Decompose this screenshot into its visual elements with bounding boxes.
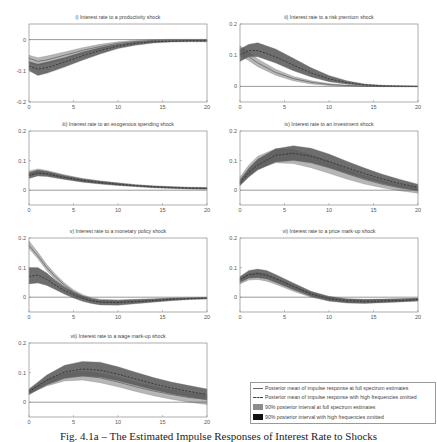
impulse-response-plot: 0510152000.10.2 — [210, 22, 428, 114]
svg-text:0.1: 0.1 — [18, 370, 26, 376]
light-band-swatch-icon — [253, 404, 263, 410]
svg-text:0.1: 0.1 — [229, 52, 237, 58]
svg-text:0.2: 0.2 — [229, 21, 237, 27]
svg-text:5: 5 — [72, 207, 75, 213]
svg-text:0: 0 — [27, 419, 30, 425]
svg-text:5: 5 — [72, 419, 75, 425]
dashed-line-icon — [253, 397, 263, 398]
impulse-response-plot: 05101520-0.2-0.10 — [0, 22, 217, 114]
svg-text:0: 0 — [238, 314, 241, 320]
svg-text:10: 10 — [115, 104, 121, 110]
panel-title: iii) Interest rate to an exogenous spend… — [29, 121, 207, 127]
svg-text:0: 0 — [238, 104, 241, 110]
svg-text:20: 20 — [415, 207, 421, 213]
svg-text:5: 5 — [283, 207, 286, 213]
svg-text:0.2: 0.2 — [229, 128, 237, 134]
legend-label: 90% posterior interval with high frequen… — [265, 414, 384, 420]
legend-item-omitted-band: 90% posterior interval with high frequen… — [253, 413, 384, 421]
svg-text:-0.1: -0.1 — [17, 68, 26, 74]
svg-text:0.1: 0.1 — [229, 158, 237, 164]
svg-text:10: 10 — [115, 207, 121, 213]
panel-title: vi) Interest rate to a price mark-up sho… — [240, 228, 418, 234]
svg-text:15: 15 — [370, 104, 376, 110]
svg-text:15: 15 — [159, 419, 165, 425]
impulse-response-plot: 0510152000.10.2 — [210, 236, 428, 324]
panel-title: i) Interest rate to a productivity shock — [29, 14, 207, 20]
impulse-response-plot: 0510152000.10.2 — [210, 129, 428, 217]
svg-text:0.2: 0.2 — [18, 340, 26, 346]
svg-text:15: 15 — [370, 314, 376, 320]
svg-text:5: 5 — [283, 314, 286, 320]
impulse-response-plot: 0510152000.10.2 — [0, 129, 217, 217]
svg-text:5: 5 — [72, 104, 75, 110]
svg-text:0: 0 — [23, 187, 26, 193]
svg-text:10: 10 — [115, 419, 121, 425]
legend-label: 90% posterior interval at full spectrum … — [265, 404, 375, 410]
panel-title: vii) Interest rate to a wage mark-up sho… — [29, 333, 207, 339]
svg-text:5: 5 — [283, 104, 286, 110]
legend-item-full-mean: Posterior mean of impulse response at fu… — [253, 384, 408, 392]
svg-text:10: 10 — [326, 207, 332, 213]
impulse-response-plot: 0510152000.10.2 — [0, 341, 217, 429]
legend: Posterior mean of impulse response at fu… — [250, 382, 436, 424]
impulse-response-plot: 0510152000.10.2 — [0, 236, 217, 324]
svg-text:0.1: 0.1 — [18, 265, 26, 271]
svg-text:0: 0 — [234, 187, 237, 193]
panel-title: v) Interest rate to a monetary policy sh… — [29, 228, 207, 234]
svg-text:10: 10 — [326, 314, 332, 320]
panel-title: ii) Interest rate to a risk premium shoc… — [240, 14, 418, 20]
solid-line-icon — [253, 388, 263, 389]
svg-text:5: 5 — [72, 314, 75, 320]
svg-text:0: 0 — [234, 294, 237, 300]
svg-text:0: 0 — [23, 399, 26, 405]
legend-label: Posterior mean of impulse response with … — [265, 394, 417, 400]
svg-text:0: 0 — [27, 207, 30, 213]
svg-text:0: 0 — [27, 314, 30, 320]
svg-text:0.2: 0.2 — [229, 235, 237, 241]
panel-title: iv) Interest rate to an investment shock — [240, 121, 418, 127]
figure-caption: Fig. 4.1a – The Estimated Impulse Respon… — [0, 430, 437, 442]
svg-text:10: 10 — [326, 104, 332, 110]
svg-text:0: 0 — [238, 207, 241, 213]
svg-text:20: 20 — [204, 419, 210, 425]
legend-item-omitted-mean: Posterior mean of impulse response with … — [253, 393, 417, 401]
svg-text:15: 15 — [370, 207, 376, 213]
svg-text:15: 15 — [159, 314, 165, 320]
svg-text:0: 0 — [23, 37, 26, 43]
svg-text:20: 20 — [415, 314, 421, 320]
svg-text:15: 15 — [159, 207, 165, 213]
legend-label: Posterior mean of impulse response at fu… — [265, 385, 408, 391]
svg-text:0.1: 0.1 — [18, 158, 26, 164]
svg-text:15: 15 — [159, 104, 165, 110]
svg-text:0: 0 — [27, 104, 30, 110]
legend-item-full-band: 90% posterior interval at full spectrum … — [253, 403, 375, 411]
svg-text:0.1: 0.1 — [229, 265, 237, 271]
svg-text:10: 10 — [115, 314, 121, 320]
svg-text:20: 20 — [415, 104, 421, 110]
dark-band-swatch-icon — [253, 414, 263, 420]
svg-text:0.2: 0.2 — [18, 235, 26, 241]
svg-text:0.2: 0.2 — [18, 128, 26, 134]
svg-text:0: 0 — [23, 294, 26, 300]
svg-text:-0.2: -0.2 — [17, 99, 26, 105]
svg-text:0: 0 — [234, 83, 237, 89]
